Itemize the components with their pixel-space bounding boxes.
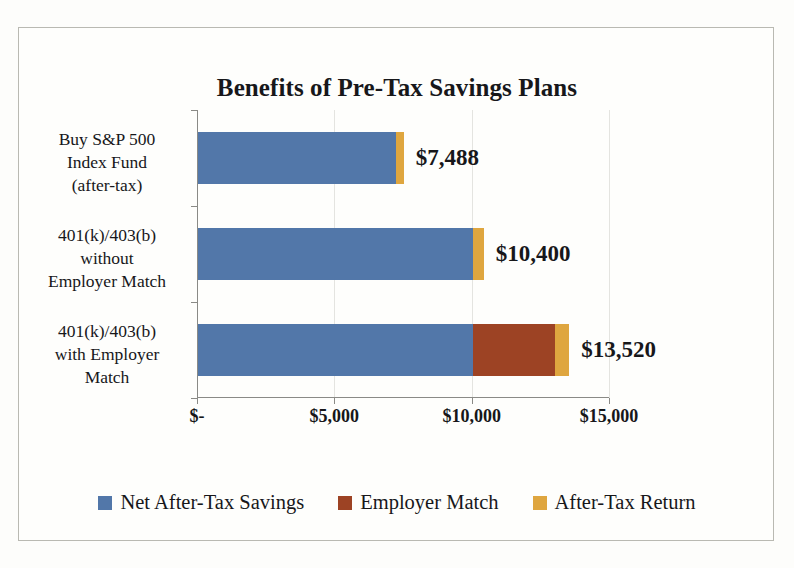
category-label-0-line1: Buy S&P 500: [23, 128, 191, 151]
legend-item[interactable]: Employer Match: [338, 491, 498, 514]
category-axis-tick: [191, 206, 197, 207]
bar-row[interactable]: $7,488: [198, 132, 404, 184]
bar-segment[interactable]: [198, 132, 396, 184]
category-label-1-line3: Employer Match: [23, 270, 191, 293]
value-axis-tick: [197, 398, 198, 404]
category-label-2-line1: 401(k)/403(b): [23, 320, 191, 343]
value-axis-tick-label: $15,000: [580, 406, 639, 427]
legend-swatch-icon: [338, 496, 352, 510]
bar-value-label: $10,400: [484, 241, 571, 267]
bar-segment[interactable]: [396, 132, 404, 184]
bar-value-label: $7,488: [404, 145, 479, 171]
category-label-1-line2: without: [23, 247, 191, 270]
bar-segment[interactable]: [473, 324, 555, 376]
category-label-2-line2: with Employer: [23, 343, 191, 366]
value-axis-tick-label: $5,000: [310, 406, 360, 427]
category-axis-labels: Buy S&P 500 Index Fund (after-tax) 401(k…: [19, 110, 191, 398]
category-label-2-line3: Match: [23, 366, 191, 389]
category-axis-tick: [191, 110, 197, 111]
bar-segment[interactable]: [198, 228, 473, 280]
value-axis-tick: [334, 398, 335, 404]
legend-label: Employer Match: [360, 491, 498, 514]
category-label-1-line1: 401(k)/403(b): [23, 224, 191, 247]
category-label-0-line3: (after-tax): [23, 174, 191, 197]
value-axis-tick: [472, 398, 473, 404]
category-label-0-line2: Index Fund: [23, 151, 191, 174]
scanned-page: Benefits of Pre-Tax Savings Plans Buy S&…: [0, 0, 794, 568]
category-label-0: Buy S&P 500 Index Fund (after-tax): [23, 128, 191, 197]
legend-swatch-icon: [533, 496, 547, 510]
chart-legend: Net After-Tax SavingsEmployer MatchAfter…: [19, 491, 775, 514]
bar-row[interactable]: $10,400: [198, 228, 484, 280]
chart-title: Benefits of Pre-Tax Savings Plans: [19, 74, 775, 102]
category-label-1: 401(k)/403(b) without Employer Match: [23, 224, 191, 293]
chart-frame: Benefits of Pre-Tax Savings Plans Buy S&…: [18, 27, 774, 541]
bar-segment[interactable]: [198, 324, 473, 376]
legend-item[interactable]: Net After-Tax Savings: [98, 491, 304, 514]
legend-swatch-icon: [98, 496, 112, 510]
value-axis-tick-label: $-: [190, 406, 205, 427]
value-axis-tick-labels: $-$5,000$10,000$15,000: [197, 406, 609, 436]
legend-label: After-Tax Return: [555, 491, 696, 514]
category-axis-tick: [191, 398, 197, 399]
legend-label: Net After-Tax Savings: [120, 491, 304, 514]
value-axis-tick-label: $10,000: [442, 406, 501, 427]
legend-item[interactable]: After-Tax Return: [533, 491, 696, 514]
category-label-2: 401(k)/403(b) with Employer Match: [23, 320, 191, 389]
bar-row[interactable]: $13,520: [198, 324, 569, 376]
bar-segment[interactable]: [473, 228, 484, 280]
category-axis-line: [197, 397, 609, 398]
plot-area: $7,488$10,400$13,520: [197, 110, 609, 398]
category-axis-tick: [191, 302, 197, 303]
bar-value-label: $13,520: [569, 337, 656, 363]
bar-segment[interactable]: [555, 324, 569, 376]
value-axis-tick: [609, 398, 610, 404]
